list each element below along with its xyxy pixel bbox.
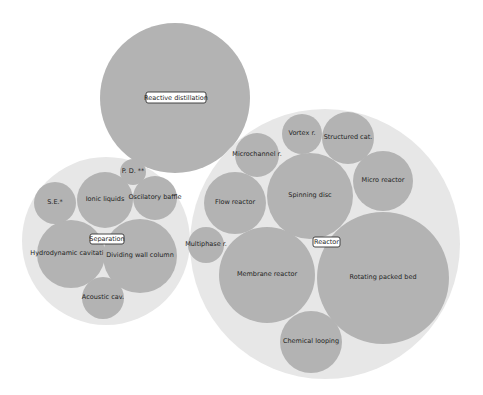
group-label-separation: Separation <box>89 235 124 243</box>
leaf-label-structured-cat: Structured cat. <box>324 133 373 141</box>
leaf-label-microchannel-r: Microchannel r. <box>232 150 281 158</box>
group-label-reactive-distillation: Reactive distillation <box>144 94 208 102</box>
leaf-label-membrane-reactor: Membrane reactor <box>237 270 298 278</box>
leaf-label-chemical-looping: Chemical looping <box>283 337 339 345</box>
leaf-label-s-e: S.E.* <box>47 198 63 206</box>
leaf-label-oscilatory-baffle: Oscilatory baffle <box>128 193 181 201</box>
leaf-label-spinning-disc: Spinning disc <box>288 191 332 199</box>
leaf-label-ionic-liquids: Ionic liquids <box>86 195 125 203</box>
circle-packing-chart: Reactive distillationP. D. **S.E.*Ionic … <box>0 0 483 395</box>
leaf-label-hydrodynamic-cavitation: Hydrodynamic cavitation <box>30 249 111 257</box>
leaf-label-flow-reactor: Flow reactor <box>215 198 256 206</box>
leaf-label-rotating-packed-bed: Rotating packed bed <box>349 273 416 281</box>
leaf-label-p-d: P. D. ** <box>122 167 145 175</box>
leaf-label-multiphase-r: Multiphase r. <box>185 240 227 248</box>
group-reactive-distillation: Reactive distillation <box>100 23 250 173</box>
leaf-label-dividing-wall-column: Dividing wall column <box>106 251 174 259</box>
leaf-label-acoustic-cav: Acoustic cav. <box>82 293 124 301</box>
leaf-label-vortex-r: Vortex r. <box>288 129 315 137</box>
leaf-label-micro-reactor: Micro reactor <box>362 176 405 184</box>
group-label-reactor: Reactor <box>314 238 339 246</box>
group-separation: P. D. **S.E.*Ionic liquidsOscilatory baf… <box>22 157 190 325</box>
